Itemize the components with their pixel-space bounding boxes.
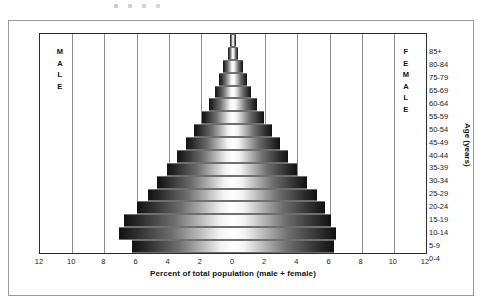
y-tick-label: 65-69 — [429, 86, 448, 95]
x-tick-label: 8 — [101, 257, 105, 266]
male-caption-letter: L — [54, 69, 66, 81]
y-tick-label: 85+ — [429, 47, 442, 56]
x-tick-label: 12 — [35, 257, 43, 266]
x-tick-label: 10 — [389, 257, 397, 266]
bar-row — [40, 73, 426, 86]
bar-female — [233, 214, 331, 227]
female-side-caption: FEMALE — [400, 46, 412, 115]
y-tick-label: 35-39 — [429, 163, 448, 172]
y-tick-label: 30-34 — [429, 176, 448, 185]
x-tick-label: 2 — [262, 257, 266, 266]
bar-male — [124, 214, 233, 227]
bar-female — [233, 227, 336, 240]
female-caption-letter: A — [400, 81, 412, 93]
bar-row — [40, 86, 426, 99]
y-tick-label: 25-29 — [429, 189, 448, 198]
bar-row — [40, 214, 426, 227]
x-tick-label: 10 — [67, 257, 75, 266]
bar-male — [148, 189, 233, 202]
female-caption-letter: M — [400, 69, 412, 81]
bar-male — [137, 201, 234, 214]
y-tick-label: 10-14 — [429, 227, 448, 236]
x-axis-title: Percent of total population (male + fema… — [39, 269, 427, 278]
bar-male — [157, 176, 233, 189]
plot-area: MALE FEMALE — [39, 33, 427, 254]
bar-male — [209, 98, 233, 111]
female-caption-letter: L — [400, 92, 412, 104]
bar-row — [40, 111, 426, 124]
male-caption-letter: E — [54, 81, 66, 93]
y-tick-label: 0-4 — [429, 253, 440, 262]
bar-row — [40, 137, 426, 150]
bar-female — [233, 86, 251, 99]
population-pyramid-chart: MALE FEMALE 12108642024681012 Percent of… — [39, 33, 427, 259]
y-tick-label: 15-19 — [429, 214, 448, 223]
bar-female — [233, 98, 257, 111]
bar-female — [233, 137, 280, 150]
bar-male — [119, 227, 233, 240]
bar-female — [233, 47, 238, 60]
bar-row — [40, 150, 426, 163]
bar-male — [219, 73, 233, 86]
bar-male — [215, 86, 233, 99]
bar-female — [233, 163, 297, 176]
bar-male — [223, 60, 233, 73]
bar-row — [40, 47, 426, 60]
female-caption-letter: E — [400, 104, 412, 116]
bar-male — [167, 163, 233, 176]
bar-row — [40, 124, 426, 137]
bar-female — [233, 240, 334, 253]
bar-male — [177, 150, 233, 163]
bar-row — [40, 60, 426, 73]
x-axis-ticks: 12108642024681012 — [39, 255, 427, 269]
bar-male — [202, 111, 233, 124]
bar-row — [40, 176, 426, 189]
bar-female — [233, 189, 317, 202]
y-tick-label: 40-44 — [429, 150, 448, 159]
bar-male — [132, 240, 233, 253]
bar-female — [233, 201, 325, 214]
y-tick-label: 60-64 — [429, 98, 448, 107]
bar-row — [40, 240, 426, 253]
male-side-caption: MALE — [54, 46, 66, 92]
y-tick-label: 50-54 — [429, 124, 448, 133]
bar-female — [233, 73, 247, 86]
bar-female — [233, 34, 236, 47]
bar-female — [233, 60, 243, 73]
male-caption-letter: A — [54, 58, 66, 70]
x-tick-label: 4 — [166, 257, 170, 266]
y-tick-label: 75-79 — [429, 73, 448, 82]
bar-row — [40, 98, 426, 111]
y-tick-label: 80-84 — [429, 60, 448, 69]
male-caption-letter: M — [54, 46, 66, 58]
bar-female — [233, 176, 307, 189]
x-tick-label: 0 — [230, 257, 234, 266]
x-tick-label: 2 — [198, 257, 202, 266]
bar-female — [233, 150, 288, 163]
bar-male — [186, 137, 233, 150]
y-tick-label: 45-49 — [429, 137, 448, 146]
x-tick-label: 6 — [133, 257, 137, 266]
y-tick-label: 5-9 — [429, 240, 440, 249]
bar-row — [40, 227, 426, 240]
bar-row — [40, 163, 426, 176]
figure-frame: MALE FEMALE 12108642024681012 Percent of… — [8, 20, 474, 296]
y-axis-title: Age (years) — [463, 123, 472, 167]
bar-row — [40, 189, 426, 202]
x-tick-label: 4 — [294, 257, 298, 266]
x-tick-label: 8 — [359, 257, 363, 266]
bar-row — [40, 34, 426, 47]
x-tick-label: 12 — [421, 257, 429, 266]
y-tick-label: 55-59 — [429, 111, 448, 120]
bar-row — [40, 201, 426, 214]
bar-male — [194, 124, 233, 137]
female-caption-letter: F — [400, 46, 412, 58]
bar-female — [233, 111, 264, 124]
x-tick-label: 6 — [326, 257, 330, 266]
bar-female — [233, 124, 272, 137]
female-caption-letter: E — [400, 58, 412, 70]
y-tick-label: 20-24 — [429, 202, 448, 211]
bar-rows — [40, 34, 426, 253]
scan-artifact — [110, 2, 170, 9]
